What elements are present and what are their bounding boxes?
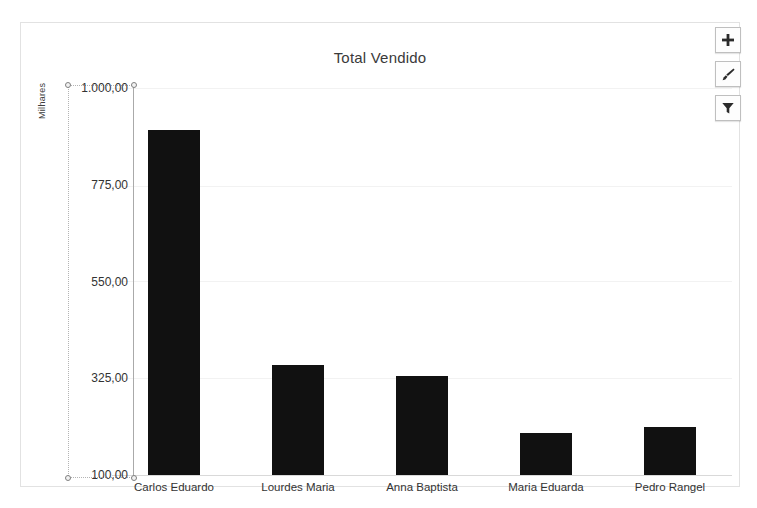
value-axis[interactable]: 100,00325,00550,00775,001.000,00 xyxy=(68,85,134,478)
x-axis-tick-label: Lourdes Maria xyxy=(261,481,335,493)
x-axis-tick-label: Pedro Rangel xyxy=(635,481,705,493)
selection-handle[interactable] xyxy=(65,82,71,88)
bar-slot xyxy=(608,66,732,496)
bar-slot xyxy=(484,66,608,496)
bar[interactable] xyxy=(272,365,324,475)
axis-line xyxy=(133,85,134,478)
bar-slot xyxy=(236,66,360,496)
y-axis-tick-label: 100,00 xyxy=(91,468,128,482)
value-axis-title[interactable]: Milhares xyxy=(37,83,47,119)
y-axis-tick-label: 550,00 xyxy=(91,275,128,289)
selection-handle[interactable] xyxy=(65,475,71,481)
bar[interactable] xyxy=(520,433,572,475)
bar[interactable] xyxy=(644,427,696,475)
chart-elements-button[interactable] xyxy=(715,27,741,53)
x-axis-tick-label: Carlos Eduardo xyxy=(134,481,214,493)
category-axis[interactable]: Carlos EduardoLourdes MariaAnna Baptista… xyxy=(112,481,732,503)
selection-handle[interactable] xyxy=(131,82,137,88)
plot-area[interactable] xyxy=(112,66,732,496)
chart-title[interactable]: Total Vendido xyxy=(21,49,739,66)
bar-slot xyxy=(360,66,484,496)
y-axis-tick-label: 775,00 xyxy=(91,178,128,192)
x-axis-tick-label: Anna Baptista xyxy=(386,481,458,493)
chart-area[interactable]: Total Vendido xyxy=(20,22,740,487)
y-axis-tick-label: 1.000,00 xyxy=(81,81,128,95)
bar-series[interactable] xyxy=(112,66,732,496)
bar[interactable] xyxy=(396,376,448,475)
x-axis-tick-label: Maria Eduarda xyxy=(508,481,583,493)
y-axis-tick-label: 325,00 xyxy=(91,371,128,385)
bar[interactable] xyxy=(148,130,200,475)
plus-icon xyxy=(721,33,735,47)
